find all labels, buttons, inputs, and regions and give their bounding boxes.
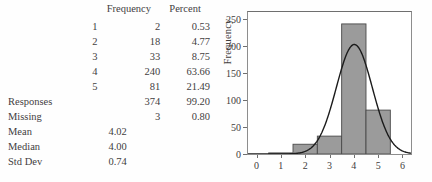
statistics-output-panel: Frequency Percent 1 2 0.53 2 18 4.77 3 3… bbox=[0, 0, 432, 182]
row-label: 1 bbox=[0, 20, 97, 35]
y-tick-label: 250 bbox=[215, 13, 241, 24]
table-row: 1 2 0.53 bbox=[0, 20, 210, 35]
row-frequency: 240 bbox=[97, 65, 160, 80]
row-label: 3 bbox=[0, 50, 97, 65]
row-percent: 0.53 bbox=[160, 20, 210, 35]
frequency-table: Frequency Percent 1 2 0.53 2 18 4.77 3 3… bbox=[0, 2, 210, 170]
row-percent: 8.75 bbox=[160, 50, 210, 65]
row-label: 5 bbox=[0, 80, 97, 95]
missing-frequency: 3 bbox=[97, 110, 160, 125]
median-percent-blank bbox=[160, 140, 210, 155]
stddev-label: Std Dev bbox=[0, 155, 97, 170]
missing-percent: 0.80 bbox=[160, 110, 210, 125]
x-tick-label: 4 bbox=[344, 160, 364, 171]
header-percent: Percent bbox=[160, 2, 210, 20]
table-row-mean: Mean 4.02 bbox=[0, 125, 210, 140]
x-tick-label: 5 bbox=[368, 160, 388, 171]
stddev-percent-blank bbox=[160, 155, 210, 170]
table-row: 2 18 4.77 bbox=[0, 35, 210, 50]
row-label: 2 bbox=[0, 35, 97, 50]
row-frequency: 2 bbox=[97, 20, 160, 35]
row-label: 4 bbox=[0, 65, 97, 80]
row-frequency: 81 bbox=[97, 80, 160, 95]
median-value: 4.00 bbox=[97, 140, 160, 155]
row-percent: 21.49 bbox=[160, 80, 210, 95]
row-frequency: 33 bbox=[97, 50, 160, 65]
table-row-median: Median 4.00 bbox=[0, 140, 210, 155]
plot-area bbox=[247, 11, 412, 155]
stddev-value: 0.74 bbox=[97, 155, 160, 170]
x-tick-label: 2 bbox=[295, 160, 315, 171]
mean-label: Mean bbox=[0, 125, 97, 140]
median-label: Median bbox=[0, 140, 97, 155]
mean-percent-blank bbox=[160, 125, 210, 140]
responses-frequency: 374 bbox=[97, 95, 160, 110]
table-row: 3 33 8.75 bbox=[0, 50, 210, 65]
table-row-missing: Missing 3 0.80 bbox=[0, 110, 210, 125]
histogram-chart: Frequency 050100150200250 0123456 bbox=[210, 0, 432, 182]
y-tick-label: 0 bbox=[215, 149, 241, 160]
table-row-responses: Responses 374 99.20 bbox=[0, 95, 210, 110]
row-frequency: 18 bbox=[97, 35, 160, 50]
x-tick-label: 0 bbox=[247, 160, 267, 171]
y-tick-label: 100 bbox=[215, 94, 241, 105]
normal-distribution-curve bbox=[248, 45, 411, 154]
y-tick-label: 150 bbox=[215, 67, 241, 78]
y-tick-label: 200 bbox=[215, 40, 241, 51]
missing-label: Missing bbox=[0, 110, 97, 125]
responses-label: Responses bbox=[0, 95, 97, 110]
x-tick-label: 1 bbox=[271, 160, 291, 171]
x-tick-label: 3 bbox=[320, 160, 340, 171]
table-row-stddev: Std Dev 0.74 bbox=[0, 155, 210, 170]
responses-percent: 99.20 bbox=[160, 95, 210, 110]
header-frequency: Frequency bbox=[97, 2, 160, 20]
x-tick-label: 6 bbox=[392, 160, 412, 171]
row-percent: 4.77 bbox=[160, 35, 210, 50]
mean-value: 4.02 bbox=[97, 125, 160, 140]
header-label-blank bbox=[0, 2, 97, 20]
table-row: 5 81 21.49 bbox=[0, 80, 210, 95]
table-row: 4 240 63.66 bbox=[0, 65, 210, 80]
frequency-table-region: Frequency Percent 1 2 0.53 2 18 4.77 3 3… bbox=[0, 0, 210, 182]
normal-curve-overlay bbox=[248, 12, 411, 154]
row-percent: 63.66 bbox=[160, 65, 210, 80]
table-header-row: Frequency Percent bbox=[0, 2, 210, 20]
y-tick-label: 50 bbox=[215, 121, 241, 132]
